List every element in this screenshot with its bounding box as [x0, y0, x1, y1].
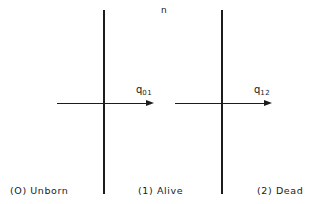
boundary-line-0-1: [103, 10, 105, 194]
state-label-alive: (1) Alive: [138, 185, 183, 196]
arrow-shaft-12: [175, 103, 267, 104]
arrow-shaft-01: [57, 103, 149, 104]
rate-label-q01: q01: [136, 84, 152, 97]
boundary-line-1-2: [221, 10, 223, 194]
state-label-unborn: (O) Unborn: [10, 185, 69, 196]
rate-subscript: 01: [142, 89, 152, 97]
rate-label-q12: q12: [254, 84, 270, 97]
arrowhead-icon: [264, 100, 272, 106]
state-label-dead: (2) Dead: [257, 185, 303, 196]
arrowhead-icon: [146, 100, 154, 106]
top-label-n: n: [161, 5, 167, 15]
rate-subscript: 12: [260, 89, 270, 97]
